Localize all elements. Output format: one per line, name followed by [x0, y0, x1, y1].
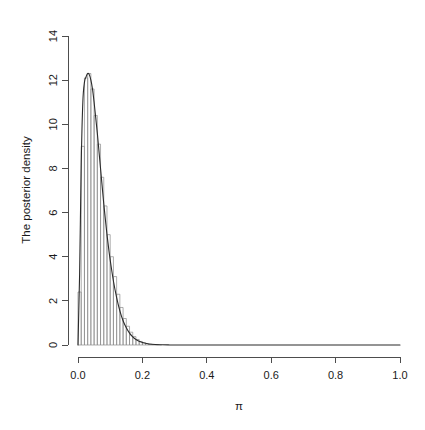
- plot-canvas: 02468101214 0.00.20.40.60.81.0 The poste…: [0, 0, 425, 430]
- histogram-bar: [81, 146, 84, 345]
- histogram-bar: [94, 115, 97, 345]
- histogram-bar: [88, 74, 91, 345]
- y-tick-label: 10: [47, 118, 59, 130]
- histogram-bars: [78, 74, 162, 345]
- posterior-density-plot: 02468101214 0.00.20.40.60.81.0 The poste…: [0, 0, 425, 430]
- histogram-bar: [91, 89, 94, 345]
- x-tick-label: 0.2: [135, 369, 150, 381]
- y-axis-title: The posterior density: [20, 136, 32, 244]
- y-tick-label: 2: [47, 298, 59, 304]
- y-tick-label: 6: [47, 210, 59, 216]
- y-tick-label: 4: [47, 254, 59, 260]
- x-tick-label: 1.0: [392, 369, 407, 381]
- density-curve: [78, 73, 400, 345]
- y-tick-label: 0: [47, 342, 59, 348]
- y-tick-label: 14: [47, 30, 59, 42]
- histogram-bar: [97, 144, 100, 345]
- x-axis-ticks: 0.00.20.40.60.81.0: [70, 357, 407, 381]
- x-tick-label: 0.4: [199, 369, 214, 381]
- x-tick-label: 0.0: [70, 369, 85, 381]
- y-tick-label: 8: [47, 165, 59, 171]
- y-tick-label: 12: [47, 74, 59, 86]
- x-tick-label: 0.8: [328, 369, 343, 381]
- histogram-bar: [84, 78, 87, 345]
- y-axis-ticks: 02468101214: [47, 30, 68, 348]
- x-axis-title: π: [235, 400, 243, 412]
- x-tick-label: 0.6: [264, 369, 279, 381]
